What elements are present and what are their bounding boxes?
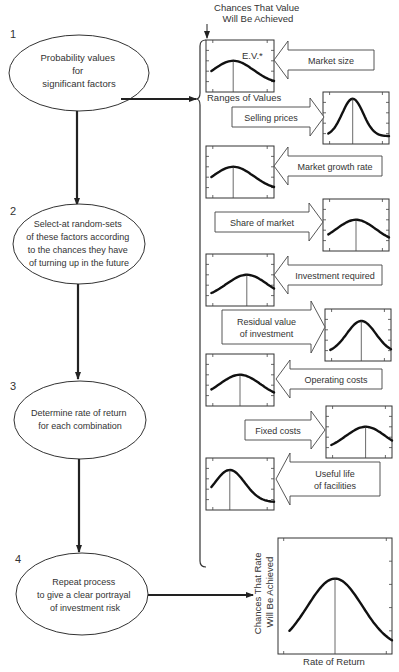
header-ylabel-line: Chances That Value: [214, 2, 299, 13]
ev-label: E.V.*: [242, 50, 263, 61]
ranges-of-values-label: Ranges of Values: [207, 92, 282, 103]
result-chart: [278, 538, 392, 654]
step-4-line: to give a clear portrayal: [37, 590, 131, 600]
factor-label: Residual value: [237, 317, 296, 327]
step-1-line: Probability values: [40, 52, 115, 63]
factor-chart-frame: [206, 254, 274, 306]
factor-chart-frame: [326, 406, 392, 458]
step-4-line: Repeat process: [52, 577, 116, 587]
factor-label: Investment required: [295, 271, 375, 281]
factor-label: of facilities: [314, 481, 357, 491]
factor-label: of investment: [240, 329, 294, 339]
step-1-line: for: [72, 65, 83, 76]
step-1-line: significant factors: [42, 78, 116, 89]
factor-label: Selling prices: [244, 113, 298, 123]
factor-item: Share of market: [215, 199, 389, 251]
factor-label: Market growth rate: [297, 162, 372, 172]
factors-brace: [196, 40, 206, 567]
factor-chart-frame: [206, 40, 274, 92]
step-4-line: of investment risk: [50, 603, 121, 613]
result-xlabel: Rate of Return: [303, 656, 365, 667]
step-2-line: of these factors according: [26, 232, 129, 242]
factor-item: Market size: [206, 40, 374, 92]
header-ylabel-line: Will Be Achieved: [223, 13, 294, 24]
factor-item: Market growth rate: [206, 146, 382, 198]
factor-label: Market size: [308, 56, 354, 66]
factor-label: Share of market: [230, 218, 295, 228]
factor-item: Useful lifeof facilities: [206, 453, 380, 510]
factor-chart-frame: [325, 309, 391, 361]
factor-chart-frame: [206, 146, 274, 198]
step-number-3: 3: [10, 380, 16, 392]
step-2-line: Select-at random-sets: [34, 219, 123, 229]
step-2-line: of turning up in the future: [29, 258, 129, 268]
factor-arrow: [276, 453, 380, 505]
factor-label: Operating costs: [304, 375, 368, 385]
result-ylabel-line: Will Be Achieved: [264, 557, 275, 628]
header-ylabel: Chances That Value Will Be Achieved: [214, 2, 302, 24]
step-2-line: to the chances they have: [28, 245, 128, 255]
factor-item: Residual valueof investment: [222, 301, 391, 361]
factor-item: Investment required: [206, 254, 382, 306]
factor-item: Fixed costs: [245, 406, 392, 458]
factor-item: Operating costs: [206, 354, 382, 406]
step-2-ellipse: [13, 204, 145, 284]
factor-charts: Market sizeSelling pricesMarket growth r…: [206, 40, 392, 510]
result-ylabel: Chances That Rate Will Be Achieved: [252, 550, 275, 634]
factor-chart-frame: [206, 458, 274, 510]
step-3-ellipse: [14, 381, 146, 459]
monte-carlo-risk-diagram: 1 Probability values for significant fac…: [0, 0, 399, 672]
step-number-4: 4: [15, 553, 21, 565]
factor-label: Useful life: [315, 469, 355, 479]
step-3-line: for each combination: [38, 421, 122, 431]
step-number-1: 1: [10, 28, 16, 40]
factor-label: Fixed costs: [255, 426, 301, 436]
step-3-line: Determine rate of return: [31, 408, 127, 418]
result-ylabel-line: Chances That Rate: [252, 552, 263, 634]
step-number-2: 2: [10, 205, 16, 217]
factor-arrow: [222, 301, 325, 353]
